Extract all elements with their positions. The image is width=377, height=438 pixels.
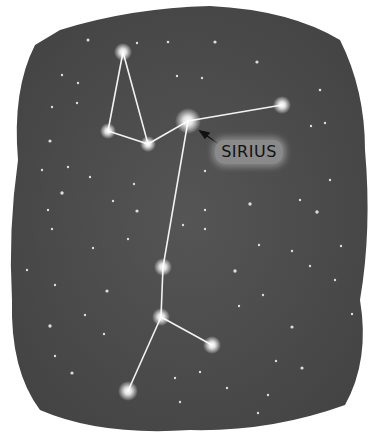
sky-background bbox=[11, 6, 368, 431]
star-map bbox=[0, 0, 377, 438]
sirius-label: SIRIUS bbox=[215, 140, 283, 164]
